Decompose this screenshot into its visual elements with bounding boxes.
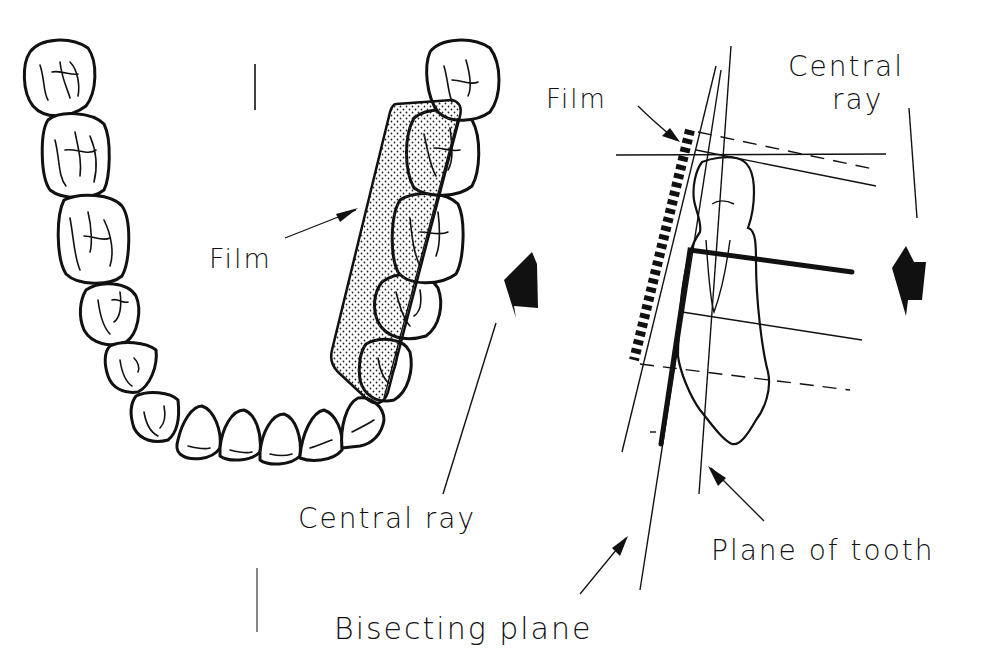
pointer-arrow-film-left [285, 208, 358, 238]
central-ray-line-left [443, 323, 496, 494]
pointer-arrow-bisecting-plane [580, 536, 628, 594]
label-plane-of-tooth: Plane of tooth [711, 537, 935, 565]
central-ray-line-right [909, 108, 917, 218]
label-film-left: Film [209, 245, 272, 272]
pointer-arrow-film-right [638, 106, 680, 142]
pointer-arrow-plane-of-tooth [708, 466, 764, 521]
label-bisecting-plane: Bisecting plane [334, 614, 592, 644]
label-central-ray-left: Central ray [298, 505, 476, 533]
label-central-ray-right-1: Central [788, 53, 904, 81]
central-ray-arrow-right [892, 246, 926, 316]
label-central-ray-right-2: ray [832, 86, 883, 114]
central-ray-arrow-left [504, 252, 538, 318]
tooth-lateral-view [634, 130, 769, 444]
label-film-right: Film [546, 86, 607, 112]
